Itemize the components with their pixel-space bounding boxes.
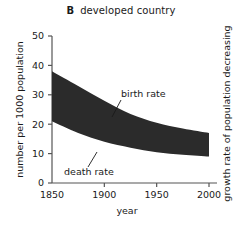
- y-tick-label: 10: [32, 148, 44, 159]
- y-tick-label: 30: [32, 89, 44, 100]
- annotation-leader-death-rate: [88, 152, 97, 167]
- y-tick-label: 40: [32, 60, 44, 71]
- y-axis-ticks: 01020304050: [32, 30, 52, 188]
- annotation-label-birth-rate: birth rate: [121, 88, 166, 99]
- x-tick-label: 1850: [40, 189, 64, 200]
- figure-panel-b: Bdeveloped country number per 1000 popul…: [0, 0, 242, 228]
- y-tick-label: 0: [38, 177, 44, 188]
- x-axis-ticks: 1850190019502000: [40, 183, 221, 200]
- x-tick-label: 1950: [145, 189, 169, 200]
- x-tick-label: 1900: [92, 189, 116, 200]
- plot-area: 01020304050 1850190019502000 birth rated…: [0, 0, 242, 228]
- annotation-label-death-rate: death rate: [64, 166, 114, 177]
- y-tick-label: 20: [32, 119, 44, 130]
- y-tick-label: 50: [32, 30, 44, 41]
- x-tick-label: 2000: [197, 189, 221, 200]
- rate-band-area: [52, 71, 209, 156]
